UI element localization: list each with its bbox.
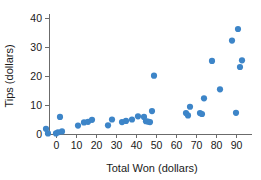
data-point — [105, 122, 111, 128]
x-axis-ticks: 0102030405060708090 — [54, 134, 243, 151]
data-point — [75, 122, 81, 128]
chart-canvas: 0102030405060708090 010203040 Total Won … — [0, 0, 261, 180]
data-point — [209, 58, 215, 64]
data-point — [57, 114, 63, 120]
data-point — [239, 57, 245, 63]
y-tick-label: 0 — [36, 128, 42, 140]
data-point — [109, 116, 115, 122]
data-point — [129, 116, 135, 122]
x-tick-label: 90 — [231, 139, 243, 151]
data-point — [151, 73, 157, 79]
data-point — [235, 26, 241, 32]
data-point — [233, 110, 239, 116]
x-tick-label: 10 — [71, 139, 83, 151]
data-point — [149, 108, 155, 114]
x-tick-label: 50 — [151, 139, 163, 151]
data-point — [135, 113, 141, 119]
data-point — [147, 119, 153, 125]
data-point — [123, 118, 129, 124]
x-tick-label: 60 — [171, 139, 183, 151]
x-tick-label: 80 — [211, 139, 223, 151]
data-point — [187, 104, 193, 110]
data-point — [199, 111, 205, 117]
x-tick-label: 0 — [54, 139, 60, 151]
y-axis-title: Tips (dollars) — [3, 44, 15, 107]
y-tick-label: 40 — [30, 12, 42, 24]
data-point — [89, 117, 95, 123]
data-point — [217, 86, 223, 92]
y-tick-label: 30 — [30, 41, 42, 53]
x-axis-title: Total Won (dollars) — [106, 162, 198, 174]
data-point — [201, 95, 207, 101]
x-tick-label: 30 — [111, 139, 123, 151]
data-point — [185, 112, 191, 118]
data-point — [237, 64, 243, 70]
data-point — [59, 128, 65, 134]
data-points — [43, 26, 245, 137]
y-tick-label: 20 — [30, 70, 42, 82]
data-point — [45, 130, 51, 136]
data-point — [229, 38, 235, 44]
x-tick-label: 40 — [131, 139, 143, 151]
x-tick-label: 70 — [191, 139, 203, 151]
y-axis-ticks: 010203040 — [30, 12, 49, 140]
scatter-plot-figure: 0102030405060708090 010203040 Total Won … — [0, 0, 261, 180]
axes-group — [50, 14, 253, 135]
y-tick-label: 10 — [30, 99, 42, 111]
x-tick-label: 20 — [91, 139, 103, 151]
